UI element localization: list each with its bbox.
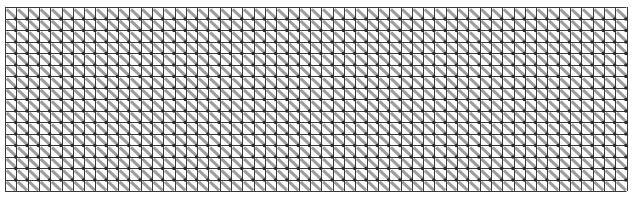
intersection-nodes	[14, 17, 628, 182]
grid-pattern-figure	[0, 0, 632, 199]
